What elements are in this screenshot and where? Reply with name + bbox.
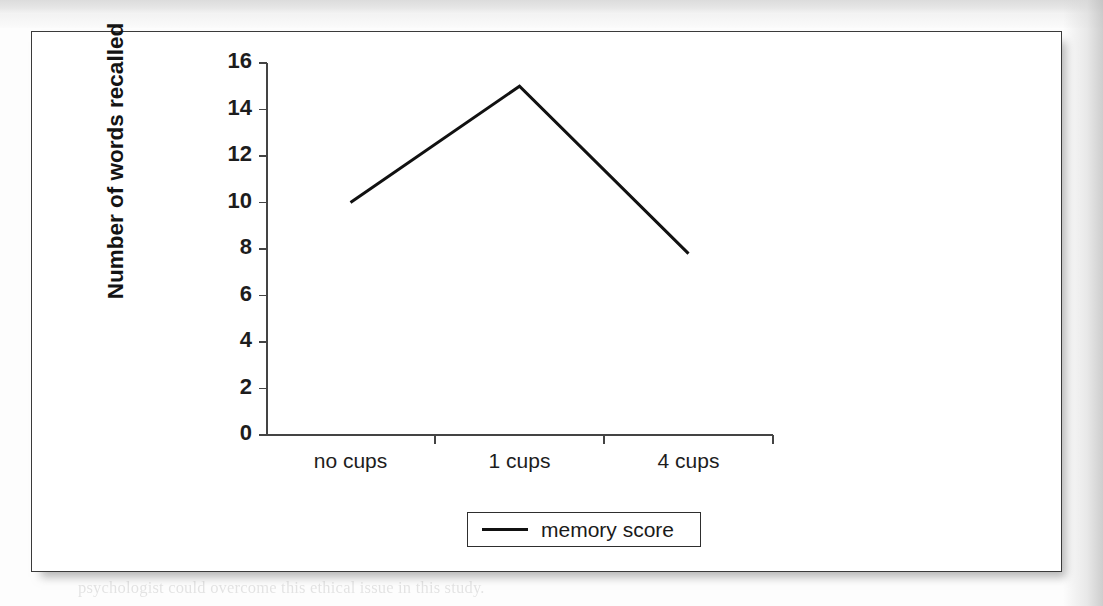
series-line-memory-score [351, 86, 689, 253]
legend-line-swatch [482, 528, 528, 531]
chart-figure: 1614121086420 no cups1 cups4 cups Number… [31, 31, 1062, 572]
plot-area: 1614121086420 no cups1 cups4 cups Number… [32, 32, 1063, 573]
chart-legend: memory score [467, 512, 701, 547]
scanned-page: in two different conditions. These were:… [0, 0, 1103, 606]
data-series-layer [32, 32, 1063, 573]
ghost-text-line: psychologist could overcome this ethical… [78, 568, 485, 606]
scan-right-edge-shadow [1063, 0, 1103, 606]
legend-label-memory-score: memory score [541, 518, 674, 542]
